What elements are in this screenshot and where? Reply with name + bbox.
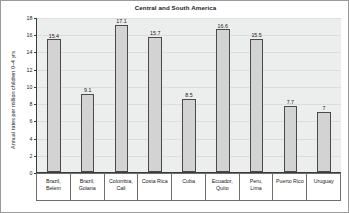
bar-value-label: 9.1	[84, 87, 91, 93]
bar[interactable]: 16.6	[216, 29, 230, 172]
x-axis-category-line: Belem	[46, 185, 61, 192]
gridline	[37, 87, 341, 88]
y-axis-tick-label: 6	[30, 118, 33, 124]
bar[interactable]: 15.4	[47, 39, 61, 172]
x-axis-category-line: Colombia,	[109, 178, 133, 185]
bar-value-label: 15.7	[150, 30, 160, 36]
y-axis-tick	[34, 35, 37, 36]
bar[interactable]: 15.7	[148, 37, 162, 172]
y-axis-tick-label: 4	[30, 136, 33, 142]
bar-value-label: 17.1	[116, 18, 126, 24]
y-axis-tick	[34, 87, 37, 88]
bar-value-label: 15.4	[49, 33, 59, 39]
plot-inner: 02468101214161815.49.117.115.78.516.615.…	[37, 18, 341, 172]
x-axis-category-line: Puerto Rico	[276, 178, 304, 185]
y-axis-tick-label: 18	[27, 15, 33, 21]
x-axis-category-line: Brazil,	[79, 178, 96, 185]
x-axis-category-label: Brazil,Goiana	[71, 174, 105, 201]
y-axis-tick-label: 2	[30, 153, 33, 159]
gridline	[37, 52, 341, 53]
gridline	[37, 18, 341, 19]
y-axis-tick-label: 16	[27, 32, 33, 38]
y-axis-tick-label: 14	[27, 49, 33, 55]
bar-value-label: 16.6	[218, 23, 228, 29]
x-axis-category-line: Uruguay	[314, 178, 334, 185]
x-axis-category-line: Cali	[109, 185, 133, 192]
x-axis-category-label: Costa Rica	[138, 174, 172, 201]
bar[interactable]: 15.5	[250, 39, 264, 172]
bar-value-label: 8.5	[185, 92, 192, 98]
y-axis-tick	[34, 121, 37, 122]
chart-figure: Central and South America Annual rates p…	[0, 0, 349, 213]
bar-value-label: 15.5	[251, 32, 261, 38]
chart-title: Central and South America	[1, 4, 349, 12]
x-axis-category-label: Colombia,Cali	[105, 174, 139, 201]
x-axis-category-row: Brazil,BelemBrazil,GoianaColombia,CaliCo…	[36, 173, 341, 201]
bar-value-label: 7	[323, 105, 326, 111]
x-axis-category-line: Lima	[250, 185, 263, 192]
x-axis-category-line: Brazil,	[46, 178, 61, 185]
x-axis-category-label: Puerto Rico	[273, 174, 307, 201]
y-axis-tick	[34, 156, 37, 157]
bar[interactable]: 7	[317, 112, 331, 172]
x-axis-category-label: Uruguay	[307, 174, 341, 201]
y-axis-tick	[34, 139, 37, 140]
gridline	[37, 35, 341, 36]
x-axis-category-line: Goiana	[79, 185, 96, 192]
y-axis-tick-label: 10	[27, 84, 33, 90]
y-axis-tick	[34, 104, 37, 105]
y-axis-tick	[34, 18, 37, 19]
x-axis-category-line: Costa Rica	[142, 178, 168, 185]
x-axis-category-label: Ecuador,Quito	[206, 174, 240, 201]
plot-area: 02468101214161815.49.117.115.78.516.615.…	[36, 18, 341, 173]
bar[interactable]: 17.1	[115, 25, 129, 172]
y-axis-tick-label: 0	[30, 170, 33, 176]
y-axis-tick	[34, 70, 37, 71]
gridline	[37, 70, 341, 71]
x-axis-category-label: Brazil,Belem	[37, 174, 71, 201]
bar[interactable]: 8.5	[182, 99, 196, 172]
bar[interactable]: 7.7	[284, 106, 298, 172]
x-axis-category-line: Cuba	[182, 178, 195, 185]
bar-value-label: 7.7	[287, 99, 294, 105]
x-axis-category-line: Peru,	[250, 178, 263, 185]
y-axis-tick-label: 12	[27, 67, 33, 73]
y-axis-label: Annual rates per million children 0–4 yr…	[10, 20, 16, 180]
y-axis-tick	[34, 52, 37, 53]
x-axis-category-label: Cuba	[172, 174, 206, 201]
x-axis-category-line: Quito	[212, 185, 233, 192]
x-axis-category-line: Ecuador,	[212, 178, 233, 185]
x-axis-category-label: Peru,Lima	[240, 174, 274, 201]
bar[interactable]: 9.1	[81, 94, 95, 172]
y-axis-tick-label: 8	[30, 101, 33, 107]
